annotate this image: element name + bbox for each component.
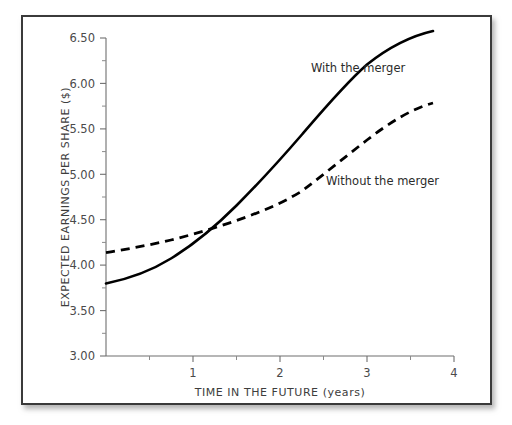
y-tick-label-2: 5.50 [69,122,95,136]
y-tick-label-6: 3.50 [69,304,95,318]
y-tick-label-3: 5.00 [69,168,95,182]
y-tick-label-1: 6.00 [69,77,95,91]
y-tick-label-5: 4.00 [69,258,95,272]
earnings-per-share-line-chart: 6.50 6.00 5.50 5.00 4.50 4.00 3.50 3.00 [23,17,490,403]
x-tick-label-1: 2 [276,366,283,380]
x-tick-label-3: 4 [450,366,457,380]
x-tick-label-2: 3 [363,366,370,380]
y-tick-label-7: 3.00 [69,349,95,363]
annotation-with-the-merger: With the merger [311,61,405,75]
y-tick-label-4: 4.50 [69,213,95,227]
x-axis-title: TIME IN THE FUTURE (years) [194,386,366,399]
x-axis: 1 2 3 4 [106,356,458,380]
y-axis: 6.50 6.00 5.50 5.00 4.50 4.00 3.50 3.00 [69,31,106,363]
x-tick-label-0: 1 [189,366,196,380]
figure-frame: 6.50 6.00 5.50 5.00 4.50 4.00 3.50 3.00 [21,15,492,405]
figure-root: 6.50 6.00 5.50 5.00 4.50 4.00 3.50 3.00 [0,0,512,425]
y-tick-label-0: 6.50 [69,31,95,45]
y-axis-title: EXPECTED EARNINGS PER SHARE ($) [59,87,72,307]
annotation-without-the-merger: Without the merger [326,174,439,188]
